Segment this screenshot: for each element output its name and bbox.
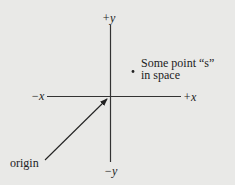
point-label-line2: in space	[141, 69, 180, 81]
point-s-dot	[132, 70, 135, 73]
neg-x-label: −x	[31, 90, 44, 102]
origin-label: origin	[10, 157, 39, 169]
neg-y-label: −y	[104, 165, 117, 177]
pos-x-label: +x	[183, 91, 196, 103]
origin-arrow	[45, 99, 107, 160]
coordinate-diagram: +y −y −x +x Some point “s” in space orig…	[0, 0, 235, 185]
pos-y-label: +y	[102, 12, 115, 24]
